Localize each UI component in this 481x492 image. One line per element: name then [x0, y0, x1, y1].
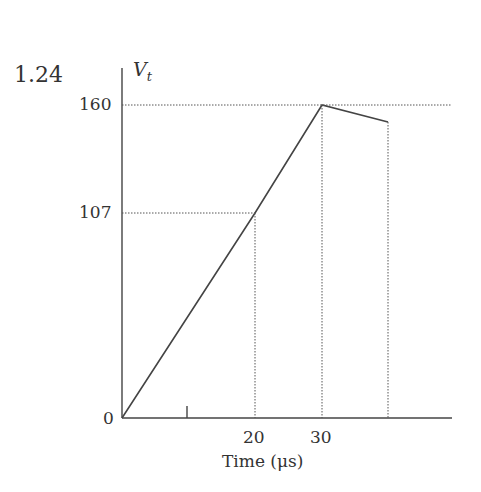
chart-plot	[0, 0, 481, 492]
